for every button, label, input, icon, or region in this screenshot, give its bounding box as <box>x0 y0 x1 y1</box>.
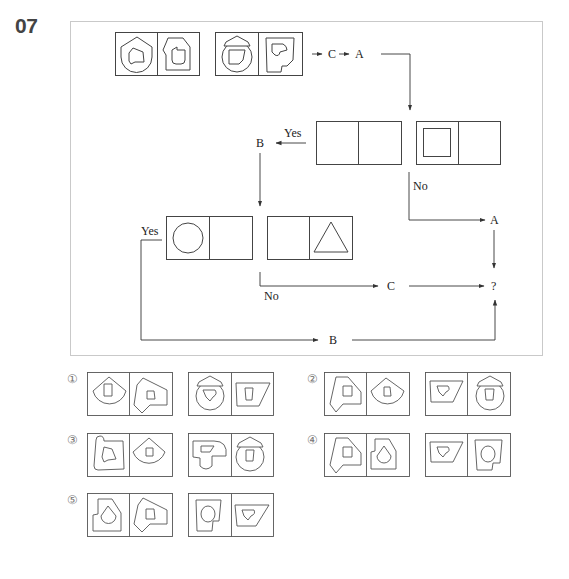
op-a-top: A <box>355 47 364 61</box>
shape-inner-polygon-icon <box>129 48 144 64</box>
decision-2-panel-a <box>167 217 253 260</box>
decision-1-panel-a <box>317 122 402 165</box>
op-b-mid: B <box>256 136 264 150</box>
option-3-label: ③ <box>67 433 78 447</box>
shape-square-icon <box>424 129 451 157</box>
option-4[interactable] <box>325 434 511 477</box>
diagram-canvas: C A Yes B No A Yes No C ? B <box>0 0 569 579</box>
option-2-label: ② <box>307 372 318 386</box>
op-a-right: A <box>490 213 499 227</box>
option-2[interactable] <box>325 373 511 416</box>
shape-outer-polygon-icon <box>163 38 190 70</box>
shape-inner-trapezoid-icon <box>229 50 245 64</box>
option-1[interactable] <box>88 373 274 416</box>
shape-cap-icon <box>224 36 250 46</box>
shape-circle-icon <box>173 223 203 253</box>
option-5[interactable] <box>88 494 274 537</box>
no-label-2: No <box>264 289 279 303</box>
result-question-mark: ? <box>491 279 496 293</box>
flow-arrows <box>141 54 495 340</box>
option-4-label: ④ <box>307 433 318 447</box>
yes-label-2: Yes <box>141 224 159 238</box>
op-b-bottom: B <box>329 333 337 347</box>
shape-triangle-icon <box>314 222 348 252</box>
op-c-bottom: C <box>387 279 395 293</box>
option-3[interactable] <box>88 434 274 477</box>
shape-inner-mushroom-icon <box>272 44 287 56</box>
no-label-1: No <box>413 179 428 193</box>
shape-inner-rounded-icon <box>172 47 185 64</box>
shape-house-circle-icon <box>121 37 152 73</box>
op-c-top: C <box>328 47 336 61</box>
option-5-label: ⑤ <box>67 493 78 507</box>
decision-1-panel-b <box>417 122 501 165</box>
shape-outer-tall-polygon-icon <box>266 38 294 72</box>
option-1-label: ① <box>67 372 78 386</box>
start-panel-2 <box>216 33 303 76</box>
start-panel-1 <box>116 33 200 76</box>
decision-2-panel-b <box>268 217 353 260</box>
yes-label-1: Yes <box>284 126 302 140</box>
